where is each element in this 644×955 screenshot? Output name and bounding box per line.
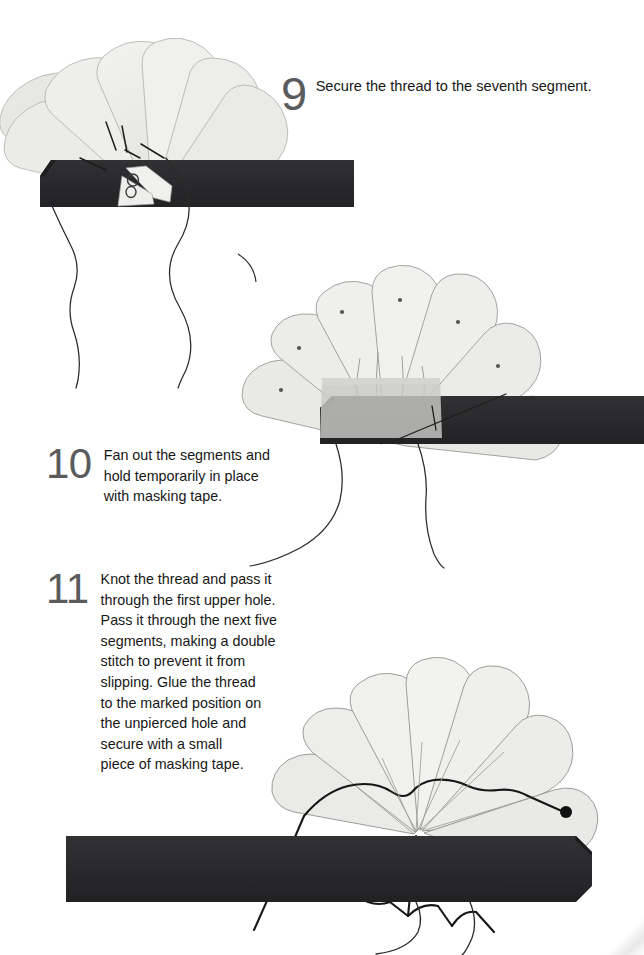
glue-mark-dot xyxy=(560,806,572,818)
step-9-number: 9 xyxy=(281,70,307,117)
step-10-block: 10 Fan out the segments and hold tempora… xyxy=(46,441,270,507)
illustration-step-10 xyxy=(236,248,644,568)
thread-trailing xyxy=(250,444,444,568)
card-strip xyxy=(40,160,354,207)
instruction-page: 9 Secure the thread to the seventh segme… xyxy=(0,0,644,955)
illustration-step-11 xyxy=(56,640,644,955)
step-11-number: 11 xyxy=(46,568,89,610)
thread-trailing xyxy=(376,902,475,955)
card-strip xyxy=(66,836,592,902)
step-10-text: Fan out the segments and hold temporaril… xyxy=(104,445,270,507)
paper-segment-group xyxy=(272,657,598,854)
step-10-number: 10 xyxy=(46,443,92,485)
step-9-block: 9 Secure the thread to the seventh segme… xyxy=(281,66,591,117)
step-9-text: Secure the thread to the seventh segment… xyxy=(316,76,592,97)
